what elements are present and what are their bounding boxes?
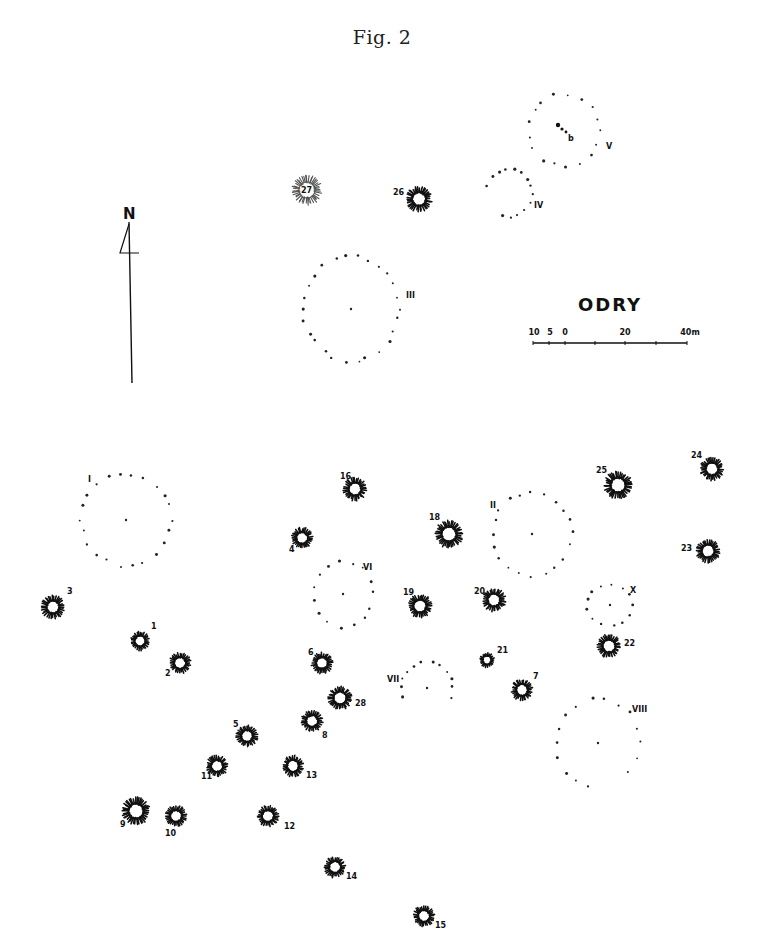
stone-dot bbox=[164, 494, 167, 497]
stone-dot bbox=[617, 704, 619, 706]
stone-dot bbox=[553, 567, 555, 569]
stone-dot bbox=[327, 565, 330, 568]
barrow-label: 3 bbox=[67, 587, 73, 596]
stone-dot bbox=[636, 757, 638, 759]
stone-dot bbox=[636, 728, 638, 730]
barrow-ring bbox=[128, 803, 143, 818]
stone-dot bbox=[120, 566, 122, 568]
barrow-2: 2 bbox=[165, 653, 191, 678]
stone-dot bbox=[352, 563, 354, 565]
barrow-12: 12 bbox=[258, 806, 296, 831]
stone-dot bbox=[392, 330, 394, 332]
stone-dot bbox=[543, 493, 545, 495]
stone-dot bbox=[338, 559, 341, 562]
barrow-4: 4 bbox=[289, 528, 313, 554]
stone-dot bbox=[631, 603, 634, 606]
stone-dot bbox=[345, 361, 348, 364]
barrow-8: 8 bbox=[302, 711, 329, 740]
barrow-26: 26 bbox=[393, 187, 432, 212]
barrow-label: 2 bbox=[165, 669, 171, 678]
barrow-ring bbox=[610, 477, 625, 492]
barrow-label: 15 bbox=[435, 921, 447, 930]
stone-circle-vii: VII bbox=[387, 661, 453, 700]
stone-circle-i: I bbox=[79, 473, 174, 568]
center-stone-dot bbox=[426, 687, 428, 689]
center-stone-dot bbox=[342, 593, 344, 595]
barrow-label: 10 bbox=[165, 829, 177, 838]
stone-dot bbox=[493, 546, 496, 549]
stone-dot bbox=[319, 574, 321, 576]
stone-dot bbox=[358, 361, 360, 363]
stone-dot bbox=[108, 475, 111, 478]
stone-dot bbox=[560, 127, 563, 130]
stone-dot bbox=[600, 623, 602, 625]
stone-circle-vi: VI bbox=[313, 559, 374, 629]
stone-dot bbox=[83, 530, 85, 532]
stone-dot bbox=[167, 529, 170, 532]
stone-dot bbox=[501, 214, 504, 217]
stone-label: b bbox=[568, 134, 574, 143]
stone-dot bbox=[575, 779, 577, 781]
barrow-ring bbox=[418, 910, 430, 922]
stone-dot bbox=[629, 710, 632, 713]
barrow-label: 20 bbox=[474, 587, 486, 596]
center-stone-dot bbox=[531, 533, 533, 535]
barrow-9: 9 bbox=[120, 797, 149, 829]
stone-dot bbox=[529, 202, 531, 204]
stone-dot bbox=[519, 494, 521, 496]
stone-dot bbox=[372, 591, 374, 593]
scale-label: 40m bbox=[680, 328, 699, 337]
barrow-ring bbox=[262, 810, 274, 822]
barrow-25: 25 bbox=[596, 466, 632, 498]
stone-dot bbox=[580, 98, 583, 101]
barrow-label: 16 bbox=[340, 472, 352, 481]
stone-dot bbox=[497, 509, 499, 511]
stone-dot bbox=[599, 129, 601, 131]
barrow-27: 27 bbox=[292, 175, 322, 205]
stone-dot bbox=[528, 120, 531, 123]
barrow-label: 28 bbox=[355, 699, 367, 708]
stone-dot bbox=[485, 185, 488, 188]
stone-dot bbox=[378, 351, 380, 353]
site-name: ODRY bbox=[578, 294, 642, 315]
stone-dot bbox=[565, 131, 568, 134]
stone-dot bbox=[552, 93, 555, 96]
barrow-label: 24 bbox=[691, 451, 703, 460]
site-title-block: ODRY 10502040m bbox=[528, 294, 699, 345]
stone-dot bbox=[600, 585, 602, 587]
stone-circle-label: I bbox=[88, 475, 91, 484]
barrow-label: 5 bbox=[233, 720, 239, 729]
circle-v-central-stones: b bbox=[556, 123, 574, 143]
stone-dot bbox=[399, 309, 401, 311]
barrow-label: 4 bbox=[289, 545, 295, 554]
stone-dot bbox=[492, 533, 495, 536]
stone-dot bbox=[419, 661, 422, 664]
barrow-15: 15 bbox=[414, 906, 447, 930]
stone-dot bbox=[518, 572, 520, 574]
stone-dot bbox=[510, 217, 512, 219]
stone-dot bbox=[302, 308, 305, 311]
stone-dot bbox=[627, 771, 629, 773]
barrow-ring bbox=[211, 760, 223, 772]
stone-dot bbox=[130, 474, 133, 477]
barrow-24: 24 bbox=[691, 451, 723, 481]
stone-dot bbox=[446, 671, 448, 673]
stone-dot bbox=[313, 586, 315, 588]
stone-dot bbox=[542, 159, 545, 162]
stone-dot bbox=[131, 564, 134, 567]
stone-dot bbox=[596, 118, 598, 120]
stone-dot bbox=[610, 584, 612, 586]
stone-dot bbox=[308, 285, 310, 287]
stone-dot bbox=[353, 623, 356, 626]
stone-dot bbox=[313, 275, 316, 278]
stone-dot bbox=[401, 677, 403, 679]
stone-dot bbox=[155, 553, 158, 556]
stone-dot bbox=[326, 621, 328, 623]
barrow-ring bbox=[441, 526, 456, 541]
barrow-16: 16 bbox=[340, 472, 367, 501]
stone-dot bbox=[556, 756, 559, 759]
barrow-ring bbox=[170, 810, 182, 822]
barrow-ring bbox=[487, 593, 500, 606]
barrow-13: 13 bbox=[283, 755, 317, 780]
stone-dot bbox=[516, 214, 518, 216]
